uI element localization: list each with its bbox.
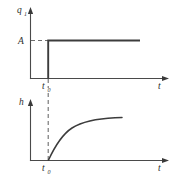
bottom-y-axis-label: h	[19, 97, 24, 107]
top-y-axis-label-subscript: 1	[24, 11, 27, 17]
top-x-axis-arrowhead	[162, 76, 169, 81]
top-x-axis-label: t	[158, 81, 161, 91]
top-t0-label: t	[42, 81, 45, 91]
two-panel-step-response-figure: q 1 A t 0 t h t 0 t	[0, 0, 175, 186]
bottom-panel-chart: h t 0 t	[19, 93, 169, 175]
bottom-x-axis-arrowhead	[162, 158, 169, 163]
bottom-t0-label: t	[42, 163, 45, 173]
bottom-y-axis-arrowhead	[28, 99, 33, 106]
top-panel-chart: q 1 A t 0 t	[17, 5, 169, 93]
top-y-axis-label: q	[17, 5, 22, 15]
top-y-axis-arrowhead	[28, 7, 33, 14]
top-level-a-label: A	[17, 36, 24, 46]
top-t0-label-subscript: 0	[48, 87, 51, 93]
bottom-x-axis-label: t	[158, 163, 161, 173]
top-step-signal-path	[48, 41, 140, 79]
bottom-response-curve-path	[48, 118, 122, 161]
bottom-t0-label-subscript: 0	[48, 169, 51, 175]
figure-container: q 1 A t 0 t h t 0 t	[0, 0, 175, 186]
